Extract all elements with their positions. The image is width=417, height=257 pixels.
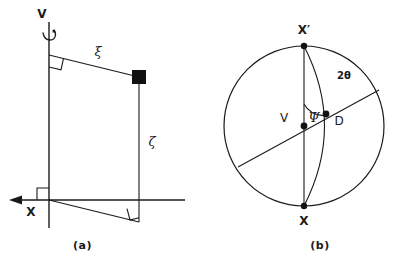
label-v-axis: V [37, 7, 47, 21]
point-v-center [301, 123, 308, 130]
square-point-marker [132, 70, 146, 84]
label-x-axis: X [26, 205, 36, 219]
point-d [323, 111, 330, 118]
panel-a: V X ξ ζ (a) [0, 0, 209, 257]
label-psi-angle: Ψ [308, 110, 320, 125]
figure-container: V X ξ ζ (a) X′ X V [0, 0, 417, 257]
label-two-theta-angle: 2θ [337, 70, 351, 81]
right-angle-marker-top [49, 58, 64, 70]
label-xi: ξ [94, 44, 102, 59]
lower-slanted-line [49, 200, 139, 222]
label-d: D [334, 114, 343, 128]
panel-a-drawing: V X ξ ζ [0, 0, 209, 257]
diagonal-chord-line [238, 90, 379, 167]
label-x-prime: X′ [298, 23, 310, 37]
panel-b-drawing: X′ X V D Ψ 2θ [209, 0, 417, 257]
rotation-arrow-head-icon [52, 29, 56, 33]
right-angle-marker-origin [37, 188, 49, 200]
point-x-prime [301, 43, 307, 49]
panel-b: X′ X V D Ψ 2θ (b) [209, 0, 417, 257]
point-x [301, 203, 307, 209]
label-x-bottom: X [299, 214, 309, 228]
right-angle-marker-bottom [127, 209, 139, 220]
label-zeta: ζ [148, 134, 156, 149]
x-axis-arrowhead-icon [9, 196, 22, 205]
panel-a-caption: (a) [0, 239, 187, 252]
label-v-center: V [280, 111, 289, 125]
panel-b-caption: (b) [216, 239, 417, 252]
